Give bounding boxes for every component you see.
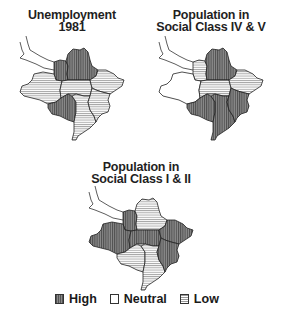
high-swatch-icon [55,294,64,304]
region-north [135,198,167,230]
legend-label-high: High [69,292,97,306]
legend-label-low: Low [194,292,219,306]
choropleth-map [79,186,204,296]
region-northwest [54,60,68,81]
map-title-line2: Social Class I & II [71,173,211,185]
legend: High Neutral Low [55,292,235,306]
legend-item-high: High [55,292,97,306]
river-estuary [20,36,54,70]
low-swatch-icon [180,294,189,304]
map-social-class-i-ii: Population inSocial Class I & II [71,0,211,324]
map-title: Population inSocial Class I & II [71,161,211,185]
river-estuary [89,186,123,220]
legend-item-neutral: Neutral [110,292,167,306]
region-northwest [123,210,137,231]
legend-item-low: Low [180,292,219,306]
legend-label-neutral: Neutral [124,292,167,306]
neutral-swatch-icon [110,294,119,304]
